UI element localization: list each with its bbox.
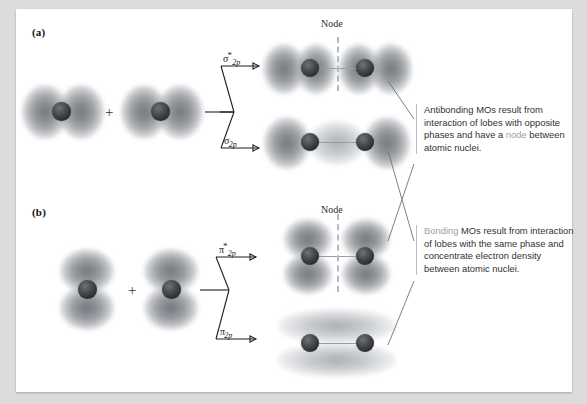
atomic-nucleus-right <box>356 247 374 265</box>
panel-a-upper-arrowhead <box>253 63 259 69</box>
panel-letter-a: (a) <box>32 26 45 38</box>
connector-pi-star-to-antibonding <box>388 164 414 241</box>
panel-a-upper-branch <box>221 66 234 112</box>
mo-subscript: 2p <box>229 140 237 149</box>
panel-a-lower-arrowhead <box>253 145 259 151</box>
atomic-nucleus-right <box>356 59 374 77</box>
connector-pi-to-bonding <box>388 281 414 345</box>
atomic-nucleus-left <box>301 133 319 151</box>
node-label-sigma-star: Node <box>321 18 343 29</box>
antibonding-highlight-node: node <box>506 129 527 140</box>
bonding-description: Bonding MOs result from interaction of l… <box>416 225 574 275</box>
atomic-nucleus <box>162 280 181 299</box>
atomic-nucleus <box>78 280 97 299</box>
mo-label-sigma-star-2p: σ*2p <box>223 50 240 67</box>
mo-lobe-merged-bottom <box>278 343 396 377</box>
mo-label-sigma-2p: σ2p <box>224 132 237 149</box>
node-dashed-line <box>337 214 339 292</box>
node-label-pi-star: Node <box>321 204 343 215</box>
mo-subscript: 2p <box>228 249 236 258</box>
mo-lobe-outer-right <box>370 44 412 94</box>
atomic-nucleus-left <box>301 334 319 352</box>
atomic-nucleus <box>52 102 71 121</box>
panel-b-upper-branch <box>216 257 229 290</box>
plus-sign-panel-b: + <box>128 283 136 298</box>
mo-star: * <box>223 241 228 251</box>
atomic-nucleus <box>151 102 170 121</box>
atomic-nucleus-right <box>356 334 374 352</box>
mo-lobe-merged-top <box>278 309 396 343</box>
panel-b-lower-arrowhead <box>250 336 256 342</box>
atomic-nucleus-left <box>301 247 319 265</box>
mo-label-pi-2p: π2p <box>220 323 232 340</box>
mo-label-pi-star-2p: π*2p <box>219 241 236 258</box>
antibonding-description: Antibonding MOs result from interaction … <box>416 104 574 154</box>
node-dashed-line <box>337 37 339 91</box>
plus-sign-panel-a: + <box>105 105 113 120</box>
mo-subscript: 2p <box>224 331 232 340</box>
figure-panel: (a) (b) + Node + <box>16 9 572 392</box>
panel-letter-b: (b) <box>32 206 46 218</box>
panel-b-upper-arrowhead <box>250 254 256 260</box>
atomic-nucleus-left <box>301 59 319 77</box>
mo-subscript: 2p <box>232 58 240 67</box>
atomic-nucleus-right <box>356 133 374 151</box>
bonding-highlight-lead: Bonding <box>424 225 458 236</box>
